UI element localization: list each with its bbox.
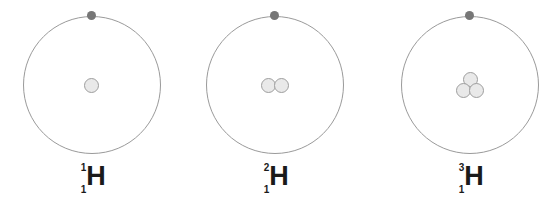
isotope-numbers: 1 1 — [77, 163, 86, 197]
atomic-number: 1 — [77, 175, 86, 197]
atom-diagram-deuterium: 2 1 H — [183, 0, 366, 210]
element-symbol: H — [86, 163, 106, 190]
mass-number: 2 — [260, 163, 269, 175]
isotope-numbers: 3 1 — [455, 163, 464, 197]
element-symbol: H — [464, 163, 484, 190]
atomic-number: 1 — [455, 175, 464, 197]
electron-dot — [270, 11, 279, 20]
isotope-diagram-figure: 1 1 H 2 1 H — [0, 0, 549, 210]
nucleus-particle-circle — [274, 78, 289, 93]
nucleus-particle-circle — [84, 78, 99, 93]
isotope-notation: 3 1 H — [455, 161, 484, 195]
mass-number: 1 — [77, 163, 86, 175]
electron-dot — [465, 11, 474, 20]
isotope-label-deuterium: 2 1 H — [183, 160, 366, 195]
atom-diagram-tritium: 3 1 H — [378, 0, 549, 210]
atom-diagram-protium: 1 1 H — [0, 0, 183, 210]
isotope-label-tritium: 3 1 H — [378, 160, 549, 195]
isotope-label-protium: 1 1 H — [0, 160, 183, 195]
isotope-numbers: 2 1 — [260, 163, 269, 197]
mass-number: 3 — [455, 163, 464, 175]
isotope-notation: 2 1 H — [260, 161, 289, 195]
nucleus-particle-circle — [469, 83, 484, 98]
isotope-notation: 1 1 H — [77, 161, 106, 195]
element-symbol: H — [269, 163, 289, 190]
electron-dot — [87, 11, 96, 20]
atomic-number: 1 — [260, 175, 269, 197]
